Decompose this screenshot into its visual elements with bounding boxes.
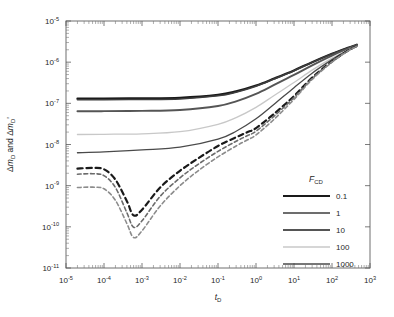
y-tick-label--8: 10-8 <box>45 139 59 149</box>
x-tick-label-2: 102 <box>326 275 338 285</box>
x-tick-label--3: 10-3 <box>135 275 149 285</box>
chart-canvas: 10-510-410-310-210-1100101102103 10-510-… <box>0 0 394 317</box>
figure-container: 10-510-410-310-210-1100101102103 10-510-… <box>0 0 394 317</box>
y-tick-label--11: 10-11 <box>42 263 59 273</box>
legend-label-0.1: 0.1 <box>336 192 348 201</box>
data-curves <box>77 45 356 238</box>
legend-label-1: 1 <box>336 209 341 218</box>
x-tick-label--1: 10-1 <box>211 275 225 285</box>
x-tick-label-0: 100 <box>250 275 262 285</box>
x-tick-label--2: 10-2 <box>173 275 187 285</box>
y-tick-label--5: 10-5 <box>45 16 59 26</box>
x-tick-label-1: 101 <box>288 275 300 285</box>
axis-titles: tDΔmD and ΔmD' <box>5 117 222 303</box>
y-tick-label--10: 10-10 <box>42 221 59 231</box>
curve-fcd-100 <box>77 46 356 135</box>
y-tick-label--9: 10-9 <box>45 180 59 190</box>
curve-fcd-1 <box>77 45 356 100</box>
legend: FCD0.11101001000 <box>283 174 354 269</box>
x-tick-label-3: 103 <box>364 275 376 285</box>
y-tick-label--6: 10-6 <box>45 57 59 67</box>
legend-label-100: 100 <box>336 243 350 252</box>
curves-clip-layer <box>77 45 356 238</box>
y-axis-title: ΔmD and ΔmD' <box>5 117 16 172</box>
curve-fcd-1-derivative <box>77 46 356 227</box>
x-axis-tick-labels: 10-510-410-310-210-1100101102103 <box>59 275 376 285</box>
legend-label-1000: 1000 <box>336 260 354 269</box>
x-tick-label--4: 10-4 <box>97 275 111 285</box>
y-axis-tick-labels: 10-510-610-710-810-910-1010-11 <box>42 16 59 273</box>
curve-fcd-10 <box>77 45 356 111</box>
y-tick-label--7: 10-7 <box>45 98 59 108</box>
x-tick-label--5: 10-5 <box>59 275 73 285</box>
legend-label-10: 10 <box>336 226 345 235</box>
x-axis-title: tD <box>215 292 222 303</box>
legend-title: FCD <box>309 174 324 185</box>
